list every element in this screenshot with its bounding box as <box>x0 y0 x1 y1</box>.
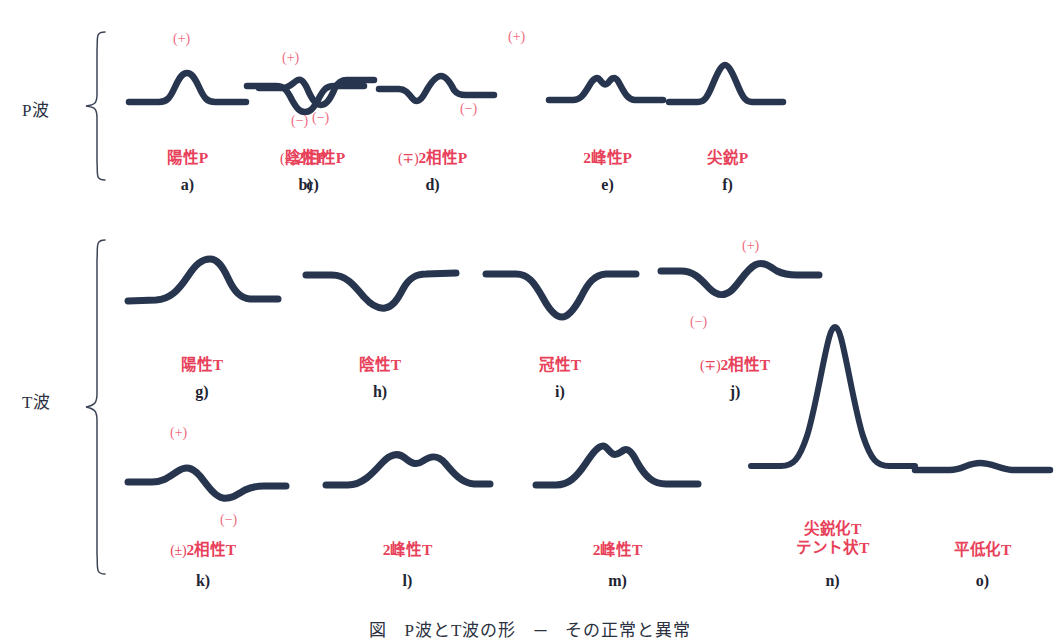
polarity-marker-c-plus: (+) <box>282 50 299 66</box>
polarity-marker-a-plus: (+) <box>173 31 190 47</box>
caption-f-text: 尖鋭P <box>707 149 748 166</box>
item-letter-e: e) <box>545 176 670 194</box>
caption-l: 2峰性T <box>320 540 495 560</box>
item-letter-k: k) <box>118 572 288 590</box>
caption-i: 冠性T <box>480 355 640 375</box>
caption-g: 陽性T <box>122 355 282 375</box>
p-wave-group-brace <box>82 30 108 182</box>
caption-i-text: 冠性T <box>539 356 581 373</box>
caption-a: 陽性P <box>125 148 250 168</box>
polarity-marker-j-plus: (+) <box>742 238 759 254</box>
caption-n-line2: テント状T <box>745 538 920 557</box>
waveform-j-biphasic-t <box>655 240 825 320</box>
caption-n: 尖鋭化T テント状T <box>745 519 920 558</box>
polarity-marker-c-minus: (−) <box>312 110 329 126</box>
caption-k: (±)2相性T <box>118 540 288 560</box>
figure-caption: 図 P波とT波の形 ─ その正常と異常 <box>0 616 1060 641</box>
item-letter-n: n) <box>745 572 920 590</box>
caption-o-text: 平低化T <box>954 541 1012 558</box>
polarity-marker-d-minus: (−) <box>460 101 477 117</box>
caption-n-line1: 尖鋭化T <box>745 519 920 538</box>
caption-k-prefix: (±) <box>170 543 186 558</box>
waveform-l-bifid-t <box>320 430 495 510</box>
item-letter-i: i) <box>480 383 640 401</box>
caption-m-text: 2峰性T <box>593 541 642 558</box>
waveform-e-notched-p <box>545 58 670 116</box>
caption-k-text: 2相性T <box>187 541 236 558</box>
waveform-m-bifid-notched-t <box>530 425 705 510</box>
caption-l-text: 2峰性T <box>383 541 432 558</box>
waveform-c-biphasic-p <box>255 58 380 116</box>
caption-c-text: 2相性P <box>297 149 345 166</box>
caption-h-text: 陰性T <box>359 356 401 373</box>
item-letter-m: m) <box>530 572 705 590</box>
caption-e-text: 2峰性P <box>583 149 631 166</box>
caption-d-text: 2相性P <box>419 149 467 166</box>
caption-c-prefix: (±) <box>280 151 296 166</box>
waveform-h-negative-t <box>300 245 460 315</box>
caption-f: 尖鋭P <box>665 148 790 168</box>
t-wave-group-brace <box>82 238 108 576</box>
caption-c: (±)2相性P <box>250 148 375 168</box>
waveform-d-biphasic-p <box>375 58 500 116</box>
item-letter-a: a) <box>125 176 250 194</box>
caption-a-text: 陽性P <box>167 149 208 166</box>
waveform-g-positive-t <box>122 245 282 315</box>
waveform-a-positive-p <box>125 58 250 116</box>
item-letter-h: h) <box>300 383 460 401</box>
waveform-n-tented-t <box>745 318 920 478</box>
item-letter-d: d) <box>370 176 495 194</box>
polarity-marker-k-minus: (−) <box>220 512 237 528</box>
waveform-o-flattened-t <box>910 440 1055 500</box>
caption-d: (∓)2相性P <box>370 148 495 168</box>
item-letter-o: o) <box>910 572 1055 590</box>
caption-e: 2峰性P <box>545 148 670 168</box>
polarity-marker-j-minus: (−) <box>690 314 707 330</box>
waveform-i-coronary-t <box>480 245 640 325</box>
item-letter-f: f) <box>665 176 790 194</box>
group-label-p-wave: P波 <box>22 96 49 121</box>
item-letter-g: g) <box>122 383 282 401</box>
caption-h: 陰性T <box>300 355 460 375</box>
caption-o: 平低化T <box>910 540 1055 560</box>
polarity-marker-k-plus: (+) <box>170 425 187 441</box>
polarity-marker-d-plus: (+) <box>508 29 525 45</box>
group-label-t-wave: T波 <box>22 388 50 413</box>
waveform-f-peaked-p <box>665 50 790 116</box>
caption-d-prefix: (∓) <box>398 151 418 166</box>
waveform-k-biphasic-t <box>122 440 292 520</box>
item-letter-c: c) <box>250 176 375 194</box>
caption-g-text: 陽性T <box>181 356 223 373</box>
item-letter-l: l) <box>320 572 495 590</box>
caption-m: 2峰性T <box>530 540 705 560</box>
caption-j-prefix: (∓) <box>700 358 720 373</box>
